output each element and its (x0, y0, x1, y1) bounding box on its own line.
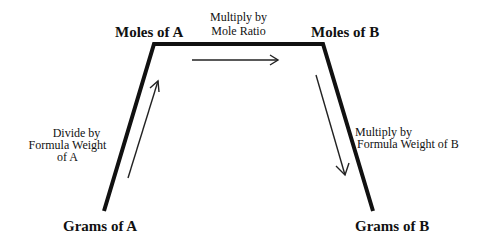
arrow-down-icon (316, 75, 349, 175)
step-label-divide-fw-a: Divide by Formula Weight of A (20, 127, 115, 163)
step-line: Mole Ratio (210, 25, 267, 37)
step-line: Multiply by (210, 11, 267, 23)
node-moles-b: Moles of B (311, 24, 379, 41)
step-label-multiply-fw-b: Multiply by Formula Weight of B (355, 126, 459, 150)
node-grams-a: Grams of A (63, 218, 137, 235)
step-line: of A (20, 151, 115, 163)
node-moles-a: Moles of A (115, 24, 183, 41)
arrow-up-icon (128, 81, 159, 178)
stoichiometry-diagram: Moles of A Moles of B Grams of A Grams o… (0, 0, 495, 248)
step-line: Formula Weight of B (357, 138, 459, 150)
node-grams-b: Grams of B (355, 218, 429, 235)
arrow-right-icon (192, 55, 278, 65)
step-label-mole-ratio: Multiply by Mole Ratio (210, 11, 267, 37)
